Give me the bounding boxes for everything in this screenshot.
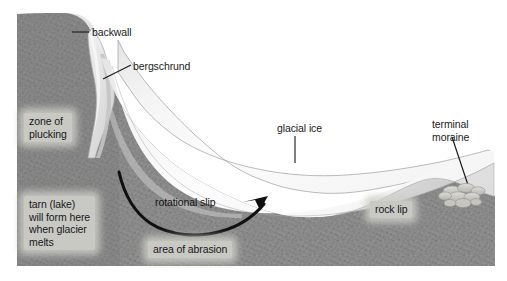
label-tarn: tarn (lake) will form here when glacier …	[24, 196, 95, 250]
moraine-boulder	[471, 199, 482, 206]
moraine-boulder	[439, 192, 452, 200]
label-glacial-ice: glacial ice	[277, 122, 322, 135]
label-bergschrund: bergschrund	[133, 60, 190, 73]
label-rotational-slip: rotational slip	[155, 196, 215, 209]
moraine-boulder	[444, 199, 456, 206]
diagram-canvas: backwall bergschrund zone of plucking ta…	[0, 0, 507, 281]
label-rock-lip: rock lip	[370, 201, 412, 218]
moraine-boulder	[455, 199, 471, 208]
label-area-of-abrasion: area of abrasion	[148, 241, 232, 258]
label-backwall: backwall	[92, 26, 131, 39]
label-terminal-moraine: terminal moraine	[432, 118, 469, 143]
label-zone-of-plucking: zone of plucking	[24, 113, 72, 142]
